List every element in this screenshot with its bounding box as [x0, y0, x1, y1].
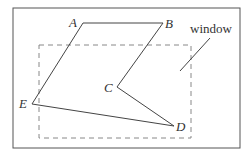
window-leader-line [180, 38, 210, 71]
vertex-label-c: C [104, 80, 113, 95]
vertex-label-b: B [165, 16, 173, 31]
window-label: window [190, 21, 233, 36]
vertex-label-d: D [175, 119, 186, 134]
clipping-window-rect [39, 45, 191, 138]
polygon-clipping-diagram: window A B C D E [0, 0, 252, 156]
polygon-abcde [32, 23, 174, 126]
vertex-label-a: A [68, 15, 77, 30]
vertex-label-e: E [18, 96, 27, 111]
